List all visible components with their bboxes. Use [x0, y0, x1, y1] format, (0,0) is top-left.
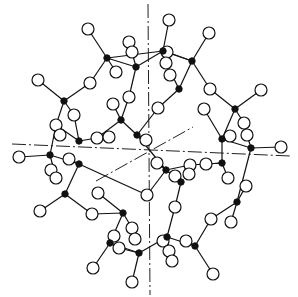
open-atom: [126, 276, 138, 288]
open-atom: [50, 172, 62, 184]
open-atom: [275, 141, 287, 153]
filled-atom: [62, 191, 68, 197]
filled-atom: [192, 243, 198, 249]
filled-atom: [118, 117, 124, 123]
open-atom: [32, 74, 44, 86]
filled-atom: [160, 48, 166, 54]
filled-atom: [163, 167, 169, 173]
open-atom: [152, 102, 164, 114]
open-atom: [222, 172, 234, 184]
bond: [65, 164, 79, 194]
filled-atom: [76, 161, 82, 167]
open-atom: [238, 117, 250, 129]
filled-atom: [178, 179, 184, 185]
filled-atom: [76, 138, 82, 144]
filled-atom: [164, 234, 170, 240]
filled-atom: [219, 136, 225, 142]
open-atom: [180, 235, 192, 247]
filled-atom: [248, 145, 254, 151]
filled-atom: [189, 58, 195, 64]
open-atom: [129, 233, 141, 245]
open-atom: [34, 205, 46, 217]
open-atom: [63, 153, 75, 165]
open-atom: [163, 14, 175, 26]
open-atom: [240, 180, 252, 192]
open-atom: [224, 130, 236, 142]
filled-atom: [104, 55, 110, 61]
open-atom: [103, 131, 115, 143]
filled-atom: [136, 250, 142, 256]
open-atom: [113, 242, 125, 254]
open-atom: [68, 109, 80, 121]
open-atom: [207, 268, 219, 280]
filled-atom: [219, 160, 225, 166]
open-atom: [200, 158, 212, 170]
open-atom: [169, 201, 181, 213]
open-atom: [123, 91, 135, 103]
open-atom: [126, 46, 138, 58]
filled-atom: [47, 152, 53, 158]
open-atom: [205, 213, 217, 225]
bond: [79, 164, 147, 195]
open-atom: [203, 27, 215, 39]
open-atom: [54, 129, 66, 141]
open-atom: [140, 134, 152, 146]
filled-atom: [176, 86, 182, 92]
open-atom: [225, 216, 237, 228]
filled-atom: [61, 98, 67, 104]
open-atom: [107, 98, 119, 110]
filled-atom: [120, 210, 126, 216]
open-atom: [110, 66, 122, 78]
open-atom: [86, 208, 98, 220]
open-atom: [204, 83, 216, 95]
filled-atom: [107, 240, 113, 246]
open-atom: [183, 168, 195, 180]
open-atom: [166, 255, 178, 267]
bond: [237, 148, 251, 202]
open-atom: [91, 132, 103, 144]
open-atom: [241, 129, 253, 141]
filled-atom: [232, 106, 238, 112]
filled-atom: [234, 199, 240, 205]
open-atom: [82, 23, 94, 35]
open-atom: [255, 84, 267, 96]
filled-atom: [134, 132, 140, 138]
bond: [179, 61, 192, 89]
open-atom: [164, 69, 176, 81]
open-atom: [151, 157, 163, 169]
molecular-cage-diagram: [0, 0, 298, 297]
open-atom: [198, 103, 210, 115]
filled-atom: [133, 64, 139, 70]
open-atom: [13, 151, 25, 163]
open-atom: [141, 189, 153, 201]
open-atom: [87, 262, 99, 274]
open-atom: [160, 57, 172, 69]
open-atom: [126, 222, 138, 234]
open-atom: [84, 77, 96, 89]
open-atom: [92, 187, 104, 199]
